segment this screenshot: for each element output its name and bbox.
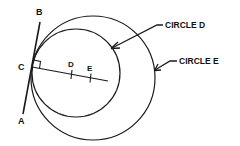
- radius-line: [32, 67, 108, 81]
- callout-label-circle-d: CIRCLE D: [165, 20, 205, 30]
- geometry-diagram: B C A D E CIRCLE D CIRCLE E: [0, 0, 240, 146]
- callout-label-circle-e: CIRCLE E: [179, 56, 219, 66]
- circle-d: [32, 29, 120, 117]
- callout-arrow-circle-e: [155, 61, 177, 70]
- tick-d: [71, 70, 72, 79]
- label-a: A: [18, 116, 25, 126]
- tick-e: [90, 74, 91, 83]
- label-c: C: [18, 62, 25, 72]
- label-d: D: [68, 60, 74, 69]
- label-b: B: [36, 7, 43, 17]
- callout-arrow-circle-d: [112, 25, 163, 48]
- label-e: E: [87, 64, 93, 73]
